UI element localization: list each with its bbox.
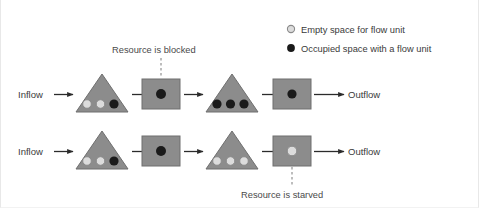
filled-circle-icon (156, 89, 166, 99)
filled-circle-icon (226, 99, 235, 108)
row-blocked: Inflow (18, 45, 380, 112)
buffer-3 (76, 131, 128, 169)
filled-circle-icon (239, 99, 248, 108)
process-flow-diagram: Empty space for flow unit Occupied space… (0, 0, 479, 208)
filled-circle-icon (212, 99, 221, 108)
row-starved: Inflow (18, 131, 380, 200)
callout-blocked-label: Resource is blocked (112, 45, 196, 55)
resource-3 (142, 136, 180, 166)
empty-circle-icon (96, 157, 105, 166)
diagram-canvas: Empty space for flow unit Occupied space… (1, 0, 479, 208)
filled-circle-icon (109, 156, 118, 165)
empty-circle-icon (96, 100, 105, 109)
legend-label-occupied: Occupied space with a flow unit (301, 44, 432, 54)
empty-circle-icon (287, 25, 294, 32)
buffer-2 (206, 74, 258, 112)
empty-circle-icon (83, 100, 92, 109)
row1-outflow-label: Outflow (348, 89, 380, 100)
legend-item-occupied: Occupied space with a flow unit (287, 44, 432, 54)
resource-2 (273, 79, 311, 109)
resource-4 (273, 136, 311, 166)
callout-starved-label: Resource is starved (241, 190, 323, 200)
row2-inflow-label: Inflow (18, 146, 43, 157)
filled-circle-icon (287, 44, 295, 52)
buffer-1 (76, 74, 128, 112)
filled-circle-icon (287, 89, 296, 98)
empty-circle-icon (287, 146, 297, 156)
legend-label-empty: Empty space for flow unit (301, 25, 405, 35)
legend: Empty space for flow unit Occupied space… (287, 25, 432, 54)
row2-outflow-label: Outflow (348, 146, 380, 157)
empty-circle-icon (226, 157, 235, 166)
legend-item-empty: Empty space for flow unit (287, 25, 405, 35)
empty-circle-icon (83, 157, 92, 166)
filled-circle-icon (156, 146, 166, 156)
resource-1 (142, 79, 180, 109)
filled-circle-icon (109, 99, 118, 108)
empty-circle-icon (213, 157, 222, 166)
row1-inflow-label: Inflow (18, 89, 43, 100)
callout-starved: Resource is starved (241, 167, 323, 200)
empty-circle-icon (240, 157, 249, 166)
buffer-4 (206, 131, 258, 169)
callout-blocked: Resource is blocked (112, 45, 196, 78)
